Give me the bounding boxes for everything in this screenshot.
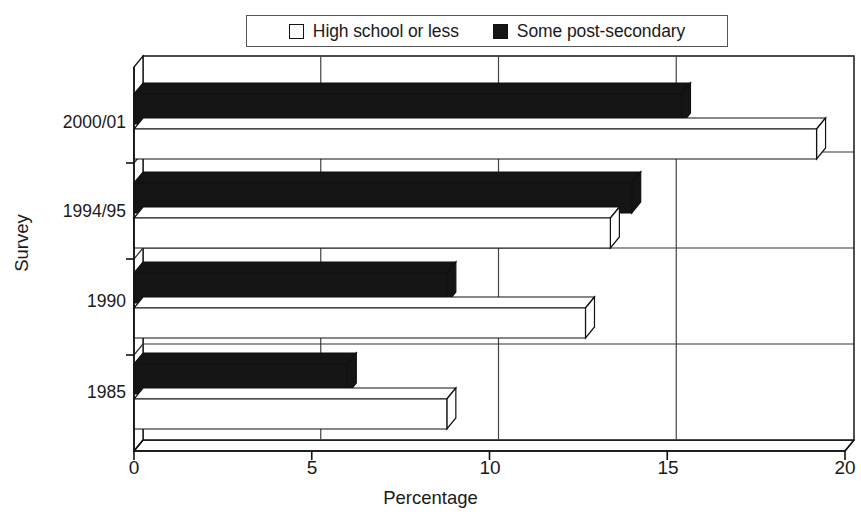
x-tick-5: 5 (282, 457, 342, 479)
plot-area (0, 0, 861, 523)
chart-root: High school or less Some post-secondary … (0, 0, 861, 523)
y-tick-2000-01: 2000/01 (14, 112, 126, 133)
x-tick-10: 10 (460, 457, 520, 479)
y-tick-1985: 1985 (14, 382, 126, 403)
x-tick-20: 20 (815, 457, 861, 479)
y-axis-title: Survey (11, 183, 33, 303)
x-tick-15: 15 (638, 457, 698, 479)
x-tick-0: 0 (104, 457, 164, 479)
x-axis-title: Percentage (0, 487, 861, 509)
